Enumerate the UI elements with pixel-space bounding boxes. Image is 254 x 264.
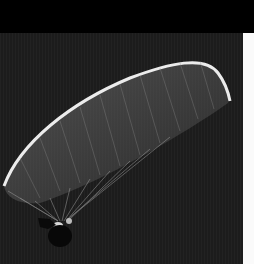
paraglider-photo (0, 33, 243, 264)
paraglider-illustration (0, 33, 243, 264)
top-black-band (0, 0, 254, 33)
right-white-margin (243, 33, 254, 264)
